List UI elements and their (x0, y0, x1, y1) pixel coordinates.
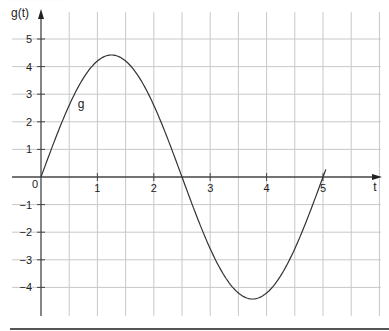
y-tick-label: 3 (26, 88, 32, 100)
x-tick-label: 2 (151, 182, 157, 194)
x-tick-label: 4 (264, 182, 270, 194)
x-axis-title: t (373, 180, 377, 194)
y-tick-label: −1 (19, 199, 32, 211)
y-tick-label: 1 (26, 143, 32, 155)
axis-ticks (37, 39, 323, 287)
y-axis-arrow-icon (38, 9, 44, 19)
x-tick-label: 3 (207, 182, 213, 194)
grid-lines (12, 12, 381, 316)
y-axis-title: g(t) (11, 6, 29, 20)
series-label-g: g (78, 97, 85, 111)
y-tick-label: −3 (19, 254, 32, 266)
y-tick-label: 5 (26, 33, 32, 45)
y-tick-label: 2 (26, 116, 32, 128)
y-tick-label: −2 (19, 226, 32, 238)
x-tick-label: 1 (94, 182, 100, 194)
x-tick-label: 5 (320, 182, 326, 194)
function-graph: 01234554321−1−2−3−4tg(t)g (0, 0, 389, 331)
origin-label: 0 (32, 178, 38, 190)
axes (12, 9, 382, 316)
y-tick-label: −4 (19, 281, 32, 293)
y-tick-label: 4 (26, 61, 32, 73)
